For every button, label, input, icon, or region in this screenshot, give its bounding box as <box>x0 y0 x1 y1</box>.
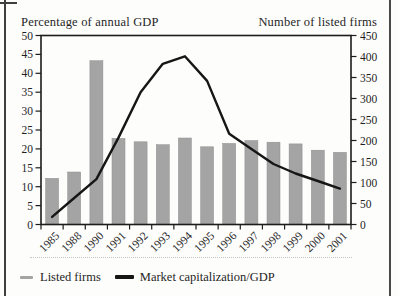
scanned-figure-page: Percentage of annual GDP Number of liste… <box>0 0 399 296</box>
bar-1991 <box>112 138 125 224</box>
legend-label-listed-firms: Listed firms <box>40 270 101 284</box>
listed-firms-swatch <box>20 276 33 279</box>
left-tick-label: 40 <box>22 67 34 79</box>
right-tick-label: 100 <box>360 177 378 189</box>
x-label-1985: 1985 <box>37 229 62 254</box>
left-tick-label: 5 <box>27 200 33 212</box>
right-tick-label: 200 <box>360 135 378 147</box>
left-tick-label: 30 <box>22 105 34 117</box>
chart-legend: Listed firms Market capitalization/GDP <box>20 270 275 284</box>
right-tick-label: 350 <box>360 72 378 84</box>
x-label-1996: 1996 <box>214 229 239 254</box>
left-tick-label: 50 <box>22 30 34 42</box>
x-label-1992: 1992 <box>125 229 150 254</box>
right-tick-label: 50 <box>360 198 372 210</box>
left-tick-label: 25 <box>22 124 34 136</box>
x-label-1991: 1991 <box>103 229 128 254</box>
market-cap-line-swatch <box>115 275 134 279</box>
x-label-1998: 1998 <box>258 229 283 254</box>
left-tick-label: 35 <box>22 86 34 98</box>
legend-label-market-cap: Market capitalization/GDP <box>140 270 275 284</box>
left-tick-label: 0 <box>27 219 33 231</box>
left-tick-label: 45 <box>22 48 34 60</box>
right-tick-label: 250 <box>360 114 378 126</box>
left-tick-label: 15 <box>22 162 34 174</box>
right-tick-label: 0 <box>360 219 366 231</box>
x-label-2001: 2001 <box>325 229 350 254</box>
x-label-1999: 1999 <box>280 229 305 254</box>
x-label-1994: 1994 <box>170 229 195 254</box>
right-tick-label: 150 <box>360 156 378 168</box>
x-label-1995: 1995 <box>192 229 217 254</box>
plot-border <box>41 36 351 225</box>
left-tick-label: 10 <box>22 181 34 193</box>
right-tick-label: 400 <box>360 51 378 63</box>
bar-1999 <box>289 144 302 225</box>
bar-1994 <box>178 138 191 225</box>
x-label-1993: 1993 <box>147 229 172 254</box>
bar-1990 <box>90 61 103 225</box>
bar-1995 <box>201 147 214 225</box>
x-label-1988: 1988 <box>59 229 84 254</box>
x-label-1997: 1997 <box>236 229 261 254</box>
x-label-2000: 2000 <box>302 229 327 254</box>
bar-1998 <box>267 142 280 224</box>
right-tick-label: 300 <box>360 93 378 105</box>
bar-2000 <box>311 150 324 224</box>
x-label-1990: 1990 <box>81 229 106 254</box>
bar-1993 <box>156 145 169 225</box>
left-tick-label: 20 <box>22 143 34 155</box>
bar-1992 <box>134 142 147 225</box>
bar-1996 <box>223 143 236 224</box>
dual-axis-bar-line-chart: 0510152025303540455005010015020025030035… <box>0 0 399 296</box>
right-tick-label: 450 <box>360 30 378 42</box>
